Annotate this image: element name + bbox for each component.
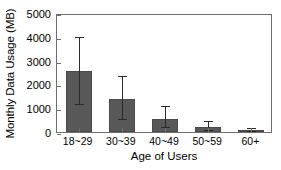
y-tick-label: 2000: [17, 79, 51, 91]
x-axis-tick-labels: 18~2930~3940~4950~5960+: [56, 135, 272, 149]
error-bar-cap: [118, 76, 127, 77]
x-tick-label: 40~49: [149, 135, 179, 147]
error-bar-cap: [204, 121, 213, 122]
x-tick-mark: [208, 128, 209, 132]
error-bar-line: [165, 107, 166, 128]
y-tick-label: 1000: [17, 103, 51, 115]
plot-area: [56, 14, 272, 133]
x-tick-label: 18~29: [63, 135, 93, 147]
y-tick-label: 3000: [17, 56, 51, 68]
error-bar-cap: [118, 119, 127, 120]
y-tick-mark: [57, 15, 61, 16]
y-axis-title: Monthly Data Usage (MB): [2, 7, 18, 140]
x-tick-label: 30~39: [106, 135, 136, 147]
bar-chart-figure: Monthly Data Usage (MB) 0100020003000400…: [0, 0, 281, 170]
x-tick-mark: [79, 128, 80, 132]
y-tick-label: 5000: [17, 8, 51, 20]
x-tick-mark: [165, 128, 166, 132]
y-tick-label: 4000: [17, 32, 51, 44]
error-bar-cap: [75, 37, 84, 38]
error-bar-line: [122, 77, 123, 120]
x-tick-label: 60+: [241, 135, 259, 147]
y-tick-label: 0: [17, 127, 51, 139]
y-tick-mark: [57, 110, 61, 111]
x-axis-title: Age of Users: [56, 150, 272, 162]
y-axis-tick-labels: 010002000300040005000: [17, 0, 51, 170]
x-tick-mark: [122, 128, 123, 132]
error-bar-cap: [161, 106, 170, 107]
error-bar-cap: [75, 104, 84, 105]
y-tick-mark: [57, 39, 61, 40]
y-tick-mark: [57, 86, 61, 87]
x-tick-mark: [251, 128, 252, 132]
y-tick-mark: [57, 63, 61, 64]
error-bar-line: [79, 38, 80, 105]
x-tick-label: 50~59: [192, 135, 222, 147]
